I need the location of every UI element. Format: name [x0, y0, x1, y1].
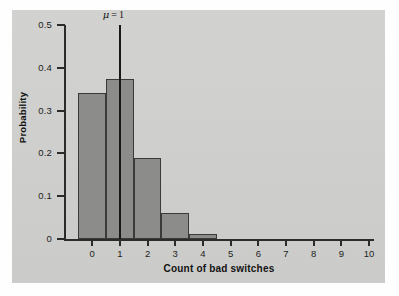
- y-tick-0.2: [57, 152, 65, 154]
- y-tick-label-0.4: 0.4: [12, 62, 52, 73]
- bar-3: [161, 213, 189, 239]
- y-tick-0.5: [57, 24, 65, 26]
- bar-0: [78, 93, 106, 239]
- y-tick-label-0.2: 0.2: [12, 147, 52, 158]
- x-tick-7: [285, 239, 287, 246]
- x-tick-9: [340, 239, 342, 246]
- x-tick-4: [202, 239, 204, 246]
- x-tick-5: [230, 239, 232, 246]
- x-tick-0: [91, 239, 93, 246]
- plot-area: Probability Count of bad switches 0.50.4…: [0, 0, 399, 296]
- x-tick-label-6: 6: [245, 248, 271, 259]
- y-tick-0: [57, 238, 65, 240]
- x-tick-label-2: 2: [135, 248, 161, 259]
- x-tick-label-10: 10: [356, 248, 382, 259]
- x-tick-label-1: 1: [107, 248, 133, 259]
- y-tick-label-0.5: 0.5: [12, 19, 52, 30]
- x-tick-label-4: 4: [190, 248, 216, 259]
- y-tick-0.4: [57, 67, 65, 69]
- y-tick-label-0.3: 0.3: [12, 105, 52, 116]
- x-tick-label-8: 8: [301, 248, 327, 259]
- x-tick-label-3: 3: [162, 248, 188, 259]
- mean-label: μ = 1: [103, 9, 124, 20]
- mean-vertical-line: [119, 25, 121, 239]
- x-tick-label-9: 9: [328, 248, 354, 259]
- x-axis-title: Count of bad switches: [64, 263, 374, 274]
- y-tick-0.1: [57, 195, 65, 197]
- y-tick-label-0.1: 0.1: [12, 190, 52, 201]
- x-tick-label-5: 5: [218, 248, 244, 259]
- x-tick-2: [147, 239, 149, 246]
- x-tick-6: [257, 239, 259, 246]
- y-axis-line: [64, 25, 66, 240]
- x-tick-1: [119, 239, 121, 246]
- x-tick-8: [313, 239, 315, 246]
- x-tick-label-7: 7: [273, 248, 299, 259]
- bar-4: [189, 234, 217, 239]
- x-axis-line: [64, 239, 374, 241]
- x-tick-label-0: 0: [79, 248, 105, 259]
- x-tick-3: [174, 239, 176, 246]
- figure-root: Probability Count of bad switches 0.50.4…: [0, 0, 399, 296]
- bar-2: [134, 158, 162, 239]
- x-tick-10: [368, 239, 370, 246]
- y-tick-label-0: 0: [12, 233, 52, 244]
- y-tick-0.3: [57, 110, 65, 112]
